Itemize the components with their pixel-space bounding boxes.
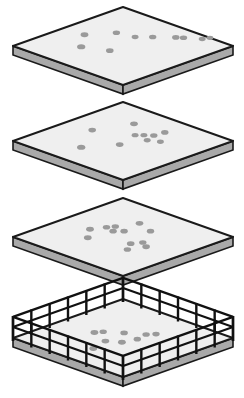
speck-dot <box>149 35 156 40</box>
speck-dot <box>152 332 159 337</box>
speck-dot <box>172 35 179 40</box>
speck-dot <box>144 138 151 142</box>
speck-dot <box>206 36 213 40</box>
speck-dot <box>127 241 135 246</box>
speck-dot <box>106 48 114 53</box>
speck-dot <box>132 133 139 137</box>
slab-layer-4 <box>13 277 233 386</box>
slab-layer-3 <box>13 198 233 285</box>
speck-dot <box>161 130 168 135</box>
speck-dot <box>139 240 146 245</box>
speck-dot <box>130 121 138 126</box>
speck-dot <box>113 30 120 35</box>
speck-dot <box>142 244 150 249</box>
speck-dot <box>136 221 144 226</box>
speck-dot <box>180 36 187 41</box>
speck-dot <box>199 37 206 41</box>
speck-dot <box>134 337 141 342</box>
speck-dot <box>120 229 127 234</box>
speck-dot <box>124 247 131 252</box>
speck-dot <box>81 32 89 37</box>
slab-layers-group <box>13 7 233 386</box>
speck-dot <box>120 331 128 336</box>
figure-root: Stacked Isometric Platform Slabs Four st… <box>0 0 244 398</box>
slab-top-face <box>13 198 233 276</box>
speck-dot <box>116 142 124 147</box>
slab-top-face <box>13 7 233 85</box>
speck-dot <box>88 128 96 133</box>
speck-dot <box>77 44 85 49</box>
speck-dot <box>101 339 109 344</box>
speck-dot <box>140 133 147 137</box>
speck-dot <box>118 340 126 345</box>
speck-dot <box>84 235 92 240</box>
speck-dot <box>112 224 119 229</box>
slab-top-face <box>13 102 233 180</box>
speck-dot <box>147 229 154 234</box>
speck-dot <box>86 227 94 232</box>
speck-dot <box>77 145 85 150</box>
speck-dot <box>109 229 116 234</box>
slab-layer-1 <box>13 7 233 94</box>
slab-layer-2 <box>13 102 233 189</box>
speck-dot <box>157 140 164 144</box>
speck-dot <box>150 133 157 138</box>
speck-dot <box>132 35 139 39</box>
stacked-slabs-diagram: Stacked Isometric Platform Slabs Four st… <box>0 0 244 398</box>
speck-dot <box>100 329 107 334</box>
speck-dot <box>90 330 98 335</box>
speck-dot <box>142 332 149 337</box>
speck-dot <box>103 225 110 230</box>
